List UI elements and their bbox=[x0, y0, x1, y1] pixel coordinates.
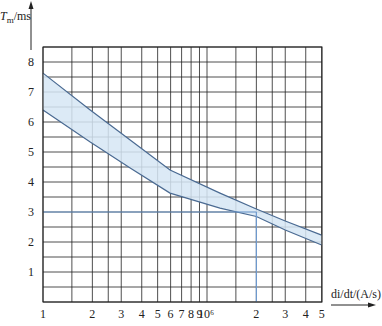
x-tick-label: 2 bbox=[89, 307, 95, 321]
x-tick-label: 10⁶ bbox=[198, 307, 214, 321]
x-tick-label: 6 bbox=[168, 307, 174, 321]
y-tick-label: 5 bbox=[28, 145, 34, 159]
plot-frame bbox=[43, 47, 322, 302]
y-tick-label: 8 bbox=[28, 55, 34, 69]
upper-bound-curve bbox=[43, 73, 322, 235]
chart: 12345678 12345678910⁶2345 Tm/ms di/dt/(A… bbox=[0, 0, 382, 326]
x-tick-label: 4 bbox=[139, 307, 145, 321]
y-tick-label: 1 bbox=[28, 265, 34, 279]
y-tick-label: 4 bbox=[28, 175, 34, 189]
x-tick-label: 4 bbox=[303, 307, 309, 321]
x-tick-label: 8 bbox=[188, 307, 194, 321]
x-tick-label: 1 bbox=[40, 307, 46, 321]
x-axis-ticks: 12345678910⁶2345 bbox=[40, 307, 325, 321]
x-tick-label: 5 bbox=[319, 307, 325, 321]
y-tick-label: 7 bbox=[28, 85, 34, 99]
y-axis-ticks: 12345678 bbox=[28, 55, 34, 279]
y-tick-label: 2 bbox=[28, 235, 34, 249]
y-axis-arrowhead-icon bbox=[29, 1, 34, 9]
plot-border bbox=[43, 47, 322, 302]
y-tick-label: 6 bbox=[28, 115, 34, 129]
y-axis-label: Tm/ms bbox=[0, 9, 31, 25]
x-tick-label: 2 bbox=[253, 307, 259, 321]
x-axis-label: di/dt/(A/s) bbox=[331, 287, 381, 301]
x-tick-label: 3 bbox=[282, 307, 288, 321]
y-tick-label: 3 bbox=[28, 205, 34, 219]
shaded-band bbox=[43, 73, 322, 245]
x-tick-label: 3 bbox=[118, 307, 124, 321]
grid bbox=[43, 47, 322, 302]
x-axis-arrowhead-icon bbox=[368, 303, 376, 308]
x-tick-label: 7 bbox=[179, 307, 185, 321]
x-tick-label: 5 bbox=[155, 307, 161, 321]
